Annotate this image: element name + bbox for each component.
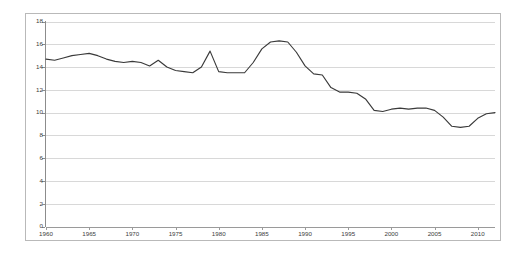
y-tick-label-14: 14	[36, 64, 43, 70]
x-tick-label-1980: 1980	[212, 231, 226, 237]
gridline-y-8	[46, 135, 495, 136]
gridline-y-18	[46, 22, 495, 23]
x-tick-label-1970: 1970	[125, 231, 139, 237]
y-tick-label-10: 10	[36, 109, 43, 115]
y-tick-label-2: 2	[40, 201, 43, 207]
y-tick-label-0: 0	[40, 223, 43, 229]
gridline-y-10	[46, 113, 495, 114]
x-tick-label-2000: 2000	[384, 231, 398, 237]
y-tick-label-4: 4	[40, 178, 43, 184]
y-tick-label-16: 16	[36, 41, 43, 47]
x-tick-label-1975: 1975	[169, 231, 183, 237]
x-tick-label-1960: 1960	[39, 231, 53, 237]
x-tick-label-1985: 1985	[255, 231, 269, 237]
y-tick-label-18: 18	[36, 18, 43, 24]
y-tick-label-8: 8	[40, 132, 43, 138]
gridline-y-16	[46, 44, 495, 45]
x-tick-label-1990: 1990	[298, 231, 312, 237]
chart-figure: 024681012141618 196019651970197519801985…	[0, 0, 529, 253]
gridline-y-0	[46, 227, 495, 228]
gridline-y-4	[46, 181, 495, 182]
gridline-y-2	[46, 204, 495, 205]
gridline-y-12	[46, 90, 495, 91]
x-tick-label-1995: 1995	[341, 231, 355, 237]
y-axis-line	[45, 21, 46, 227]
y-tick-label-6: 6	[40, 155, 43, 161]
y-tick-label-12: 12	[36, 87, 43, 93]
gridline-y-6	[46, 158, 495, 159]
gridline-y-14	[46, 67, 495, 68]
x-tick-label-1965: 1965	[82, 231, 96, 237]
x-tick-label-2010: 2010	[471, 231, 485, 237]
x-tick-label-2005: 2005	[428, 231, 442, 237]
chart-frame	[25, 13, 501, 241]
